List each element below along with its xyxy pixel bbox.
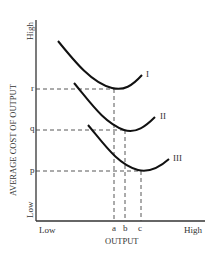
curve-label-II: II xyxy=(160,112,166,121)
y-high-label: High xyxy=(26,22,35,40)
x-low-label: Low xyxy=(39,226,56,235)
curve-label-III: III xyxy=(173,154,182,163)
curve-II xyxy=(74,83,155,131)
x-high-label: High xyxy=(184,226,202,235)
x-axis-title: OUTPUT xyxy=(105,237,139,246)
y-axis-title: AVERAGE COST OF OUTPUT xyxy=(9,84,18,196)
curve-label-I: I xyxy=(146,70,149,79)
y-tick-r: r xyxy=(31,84,34,93)
y-tick-q: q xyxy=(30,124,35,133)
y-tick-p: p xyxy=(30,166,35,175)
x-tick-b: b xyxy=(123,224,128,233)
x-tick-a: a xyxy=(112,224,116,233)
y-low-label: Low xyxy=(26,202,35,219)
x-tick-c: c xyxy=(138,224,142,233)
curve-I xyxy=(58,41,142,89)
